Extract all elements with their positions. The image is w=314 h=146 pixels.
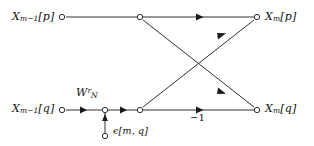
arrowhead-cross-up [217,33,226,40]
arrowhead-twiddle-input [80,107,87,114]
label-output-bottom-base: X [265,102,273,115]
label-input-top-index: [p] [38,10,54,23]
label-input-bottom-base: X [12,102,20,115]
label-output-top: Xm[p] [265,11,296,23]
arrowhead-top-rail [196,13,204,20]
branch-node-q [137,107,142,112]
label-input-bottom-index: [q] [38,102,54,115]
label-output-bottom-index: [q] [280,102,296,115]
label-input-top: Xm−1[p] [12,11,54,23]
arrowhead-error-inject [102,114,108,121]
arrowhead-group [80,13,226,121]
label-error-index: [m, q] [119,125,149,136]
label-input-bottom-sub: m−1 [20,106,38,115]
label-gain-minus-one: −1 [190,113,205,123]
butterfly-flow-graph-figure: Xm−1[p] Xm[p] Xm−1[q] Xm[q] WrN ϵ[m, q] … [0,0,314,146]
arrowhead-cross-down [217,88,226,95]
label-input-bottom: Xm−1[q] [12,103,54,115]
arrowhead-sum-output [120,107,127,114]
label-input-top-base: X [12,10,20,23]
label-twiddle-base: W [76,86,88,99]
output-node-q [254,107,259,112]
branch-node-p [137,14,142,19]
label-input-top-sub: m−1 [20,14,38,23]
error-sum-node [102,107,107,112]
input-node-q [59,107,64,112]
error-source-node [102,133,107,138]
label-twiddle-factor: WrN [76,87,98,99]
output-node-p [254,14,259,19]
label-output-top-index: [p] [280,10,296,23]
label-output-bottom: Xm[q] [265,103,296,115]
label-twiddle-sub: N [91,91,98,100]
label-error-term: ϵ[m, q] [113,126,148,136]
label-output-top-base: X [265,10,273,23]
input-node-p [59,14,64,19]
